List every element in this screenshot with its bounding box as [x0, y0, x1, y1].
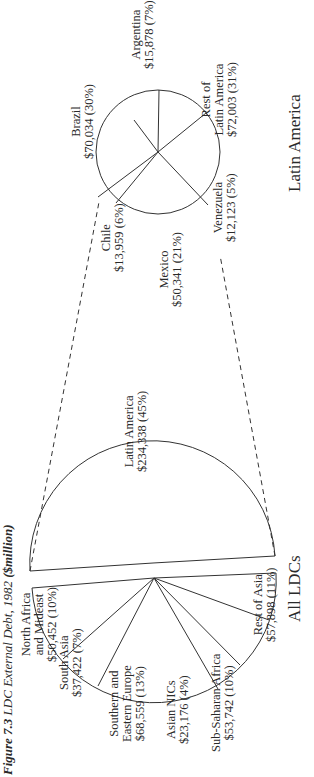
slice-edge [134, 120, 158, 152]
label-argentina: Argentina $15,878 (7%) [130, 0, 156, 69]
figure-canvas: Figure 7.3 LDC External Debt, 1982 ($mil… [0, 0, 314, 777]
label-rest-asia: Rest of Asia $57,898 (11%) [252, 567, 278, 642]
label-ss-africa: Sub-Saharan Africa $53,742 (10%) [210, 654, 236, 752]
pie-title-latin-america: Latin America [285, 94, 305, 192]
label-north-africa: North Africa and Mideast $50,452 (10%) [20, 587, 59, 662]
slice-edge [158, 152, 208, 205]
label-mexico: Mexico $50,341 (21%) [158, 232, 184, 307]
slice-edge [98, 152, 158, 197]
connector-bottom [220, 255, 275, 556]
slice-edge [158, 90, 159, 152]
label-chile: Chile $13,959 (6%) [100, 203, 126, 272]
label-se-europe: Southern and Eastern Europe $68,559 (13%… [108, 665, 147, 742]
label-brazil: Brazil $70,034 (30%) [70, 84, 96, 159]
pie-title-all-ldcs: All LDCs [285, 555, 305, 622]
connector-top [30, 202, 99, 571]
label-asian-nics: Asian NICs $23,176 (4%) [165, 675, 191, 744]
slice-edge [158, 113, 206, 152]
label-south-asia: South Asia $37,422 (7%) [58, 628, 84, 697]
slice-edge [116, 152, 158, 203]
label-latin-america-slice: Latin America $234,338 (45%) [123, 391, 149, 472]
label-venezuela: Venezuela $12,123 (5%) [212, 173, 238, 242]
label-rest-la: Rest of Latin America $72,003 (31%) [200, 62, 239, 137]
latin-america-slice [30, 441, 275, 571]
